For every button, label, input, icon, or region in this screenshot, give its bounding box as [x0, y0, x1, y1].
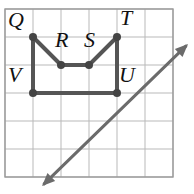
vertex-label-v: V: [8, 64, 21, 86]
vertex-dot-r: [57, 61, 65, 69]
figure-canvas: [0, 0, 194, 194]
vertex-dot-q: [29, 33, 37, 41]
vertex-label-r: R: [55, 29, 68, 51]
vertex-label-t: T: [120, 7, 132, 29]
vertex-dot-v: [29, 89, 37, 97]
vertex-dot-u: [113, 89, 121, 97]
vertex-label-q: Q: [8, 9, 24, 31]
vertex-dot-s: [85, 61, 93, 69]
vertex-dot-t: [113, 33, 121, 41]
vertex-label-s: S: [84, 29, 95, 51]
vertex-label-u: U: [119, 64, 135, 86]
geometry-figure: QRSTUV: [0, 0, 194, 194]
